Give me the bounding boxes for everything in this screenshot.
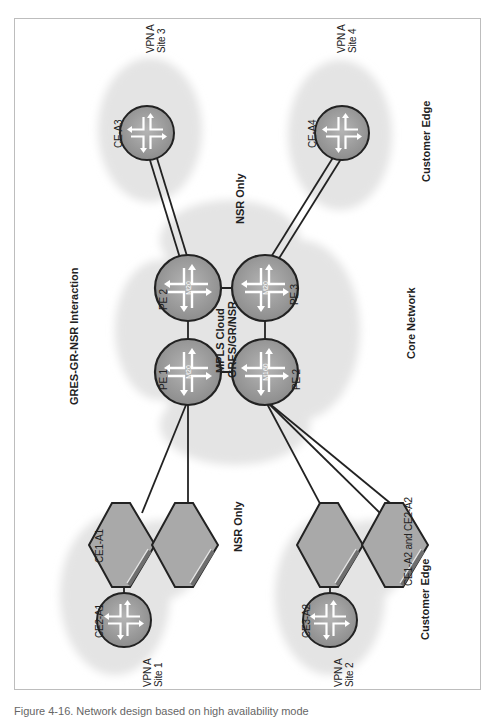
site-name: Site 1 xyxy=(154,659,165,687)
zone-core-network: Core Network xyxy=(406,287,418,359)
router-ce-a4 xyxy=(315,106,369,160)
ce-label-ce-a4: CE-A4 xyxy=(308,120,319,148)
vpn-name: VPN A xyxy=(146,25,157,53)
figure-title: GRES-GR-NSR Interaction xyxy=(69,267,81,405)
pe-label-pe3: PE 3 xyxy=(290,284,301,305)
model-label: M20 xyxy=(262,281,269,295)
model-label: M20 xyxy=(185,281,192,295)
zone-nsr-only-top: NSR Only xyxy=(235,173,247,224)
zone-customer-edge-top: Customer Edge xyxy=(421,101,433,182)
site-label-2: VPN A Site 2 xyxy=(334,659,355,687)
vpn-name: VPN A xyxy=(143,659,154,687)
site-label-1: VPN A Site 1 xyxy=(143,659,164,687)
core-cloud-label: MPLS Cloud GRES/GR/NSR xyxy=(215,301,238,373)
ce-label-ce3-a2: CE3-A2 xyxy=(302,604,313,638)
site-name: Site 2 xyxy=(345,659,356,687)
model-label: M20 xyxy=(185,365,192,379)
figure-caption: Figure 4-16. Network design based on hig… xyxy=(14,705,309,717)
pe-label-pe2-bottom: PE 2 xyxy=(292,369,303,390)
vpn-name: VPN A xyxy=(334,659,345,687)
ce-label-ce2-a1: CE2-A1 xyxy=(95,604,106,638)
pe-label-pe1: PE 1 xyxy=(159,369,170,390)
zone-customer-edge-bottom: Customer Edge xyxy=(420,559,432,640)
pe-label-pe2-top: PE 2 xyxy=(159,289,170,310)
core-cloud-line1: MPLS Cloud xyxy=(215,301,227,373)
site-name: Site 4 xyxy=(348,25,359,53)
model-label: M160 xyxy=(262,363,269,381)
core-cloud-line2: GRES/GR/NSR xyxy=(227,301,239,378)
ce-label-ce-a3: CE-A3 xyxy=(114,120,125,148)
site-name: Site 3 xyxy=(157,25,168,53)
zone-nsr-only-bottom: NSR Only xyxy=(233,501,245,552)
vpn-name: VPN A xyxy=(337,25,348,53)
site-label-4: VPN A Site 4 xyxy=(337,25,358,53)
ce-label-ce1-ce2-a2: CE1-A2 and CE2-A2 xyxy=(404,497,415,586)
ce-label-ce1-a1: CE1-A1 xyxy=(95,529,106,563)
router-ce-a3 xyxy=(120,106,174,160)
site-label-3: VPN A Site 3 xyxy=(146,25,167,53)
